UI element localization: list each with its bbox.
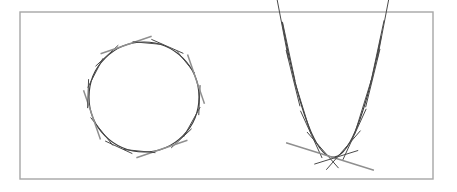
envelope-figure-svg [0, 0, 457, 192]
figure-background [0, 0, 457, 192]
figure-container [0, 0, 457, 192]
